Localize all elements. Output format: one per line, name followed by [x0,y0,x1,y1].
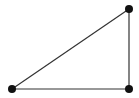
vertex-C [125,5,133,13]
vertex-B [125,85,133,93]
triangle-diagram [0,0,139,98]
vertex-A [8,85,16,93]
edge-C-A [12,9,129,89]
triangle-edges [12,9,129,89]
